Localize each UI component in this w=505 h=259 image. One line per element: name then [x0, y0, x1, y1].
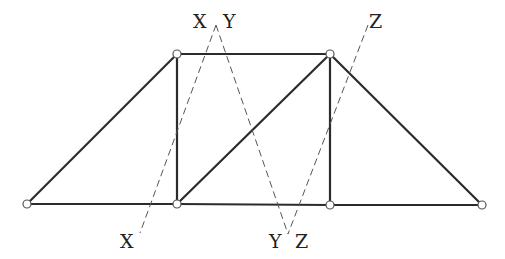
label-y-top: Y	[222, 10, 236, 32]
member-right-end-diagonal	[330, 54, 482, 205]
member-bottom-chord-2	[177, 204, 330, 205]
truss-members	[27, 54, 482, 205]
member-center-diagonal	[177, 54, 330, 204]
joint-bottom-mid-left-icon	[173, 200, 181, 208]
joint-top-left-icon	[173, 50, 181, 58]
joint-bottom-right-icon	[478, 201, 486, 209]
label-y-bottom: Y	[268, 230, 282, 252]
section-y-line	[216, 25, 288, 234]
joint-bottom-left-icon	[23, 200, 31, 208]
label-z-top: Z	[369, 10, 382, 32]
label-x-bottom: X	[120, 230, 134, 252]
label-x-top: X	[193, 10, 207, 32]
member-left-end-diagonal	[27, 54, 177, 204]
joint-bottom-mid-right-icon	[326, 201, 334, 209]
joint-top-right-icon	[326, 50, 334, 58]
truss-diagram: XYZXYZ	[0, 0, 505, 259]
label-z-bottom: Z	[295, 230, 308, 252]
